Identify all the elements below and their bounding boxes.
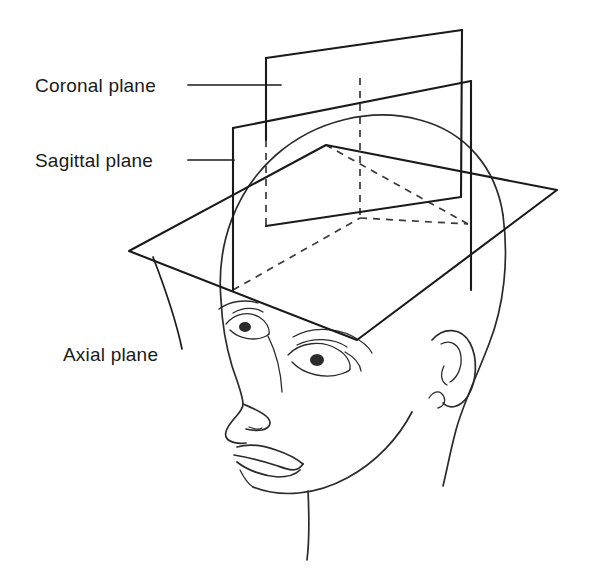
coronal-plane-right-edge <box>461 30 462 197</box>
sagittal-plane-label: Sagittal plane <box>35 150 153 171</box>
coronal-plane-label: Coronal plane <box>35 75 156 96</box>
axial-plane-label: Axial plane <box>63 344 158 365</box>
anatomical-planes-diagram: Coronal plane Sagittal plane Axial plane <box>0 0 601 584</box>
far-eye-pupil <box>239 322 251 332</box>
near-eye-pupil <box>310 354 324 366</box>
